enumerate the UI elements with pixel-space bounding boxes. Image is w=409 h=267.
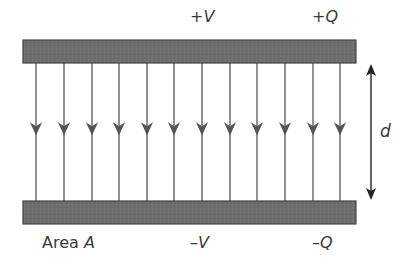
electric-field-lines [32,63,345,201]
separation-double-arrow [366,64,376,200]
field-line [198,63,207,201]
field-line [143,63,152,201]
field-line [226,63,235,201]
capacitor-diagram [0,0,409,267]
field-line [88,63,97,201]
field-line [253,63,262,201]
bottom-voltage-label: –V [190,235,209,251]
field-line [115,63,124,201]
top-charge-label: +Q [312,9,338,25]
field-line [309,63,318,201]
field-line [336,63,345,201]
separation-label: d [380,123,391,140]
field-line [32,63,41,201]
bottom-charge-label: –Q [312,235,333,251]
top-voltage-label: +V [190,9,214,25]
field-line [170,63,179,201]
bottom-plate [23,201,356,224]
field-line [281,63,290,201]
area-label: Area A [42,235,95,251]
top-plate [23,40,356,63]
field-line [60,63,69,201]
